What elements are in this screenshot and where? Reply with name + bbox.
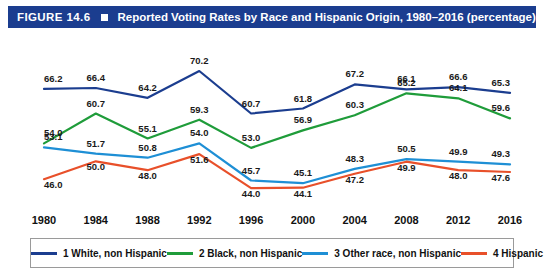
x-axis-tick-label: 2008 [389,214,423,226]
x-axis-tick-label: 1996 [234,214,268,226]
legend-color-swatch [167,252,193,255]
data-point-label: 53.1 [44,131,63,142]
legend-item: 4 Hispanic [461,248,543,259]
x-axis-labels: 1980198419881992199620002004200820122016 [8,214,536,232]
data-point-label: 59.3 [190,104,209,115]
data-point-label: 48.0 [138,170,157,181]
chart-legend: 1 White, non Hispanic2 Black, non Hispan… [30,238,514,268]
data-point-label: 64.1 [449,82,468,93]
data-point-label: 47.2 [345,174,364,185]
legend-label: 4 Hispanic [493,248,543,259]
data-point-label: 51.7 [87,138,106,149]
x-axis-tick-label: 2016 [493,214,527,226]
data-point-label: 70.2 [190,55,209,66]
data-point-label: 45.1 [294,167,313,178]
data-point-label: 66.4 [87,72,106,83]
data-point-label: 49.9 [449,146,468,157]
data-point-label: 60.7 [242,98,261,109]
white-square-icon [101,14,108,21]
x-axis-tick-label: 2004 [338,214,372,226]
chart-svg: 66.266.464.270.260.761.867.266.166.665.3… [8,30,536,216]
data-point-label: 60.3 [345,99,364,110]
data-point-label: 59.6 [492,102,511,113]
legend-color-swatch [31,252,57,255]
data-point-label: 64.2 [138,82,157,93]
figure-title-bar: FIGURE 14.6 Reported Voting Rates by Rac… [8,6,536,28]
legend-color-swatch [461,252,487,255]
data-point-label: 44.0 [242,188,261,199]
data-point-label: 49.3 [492,148,511,159]
x-axis-tick-label: 1980 [27,214,61,226]
data-point-label: 55.1 [138,123,157,134]
data-point-label: 65.3 [492,77,511,88]
data-point-label: 60.7 [87,98,106,109]
data-point-label: 61.8 [294,93,313,104]
data-point-label: 50.8 [138,142,157,153]
series-line [44,93,510,148]
series-line [44,154,510,188]
data-point-label: 53.0 [242,132,261,143]
legend-item: 3 Other race, non Hispanic [302,248,461,259]
x-axis-tick-label: 2012 [441,214,475,226]
data-point-label: 67.2 [345,68,364,79]
x-axis-tick-label: 2000 [286,214,320,226]
legend-label: 1 White, non Hispanic [63,248,167,259]
data-point-label: 48.0 [449,170,468,181]
legend-color-swatch [302,252,328,255]
figure-number: FIGURE 14.6 [8,11,90,23]
figure-container: FIGURE 14.6 Reported Voting Rates by Rac… [0,0,544,278]
x-axis-tick-label: 1988 [131,214,165,226]
data-point-label: 50.0 [87,161,106,172]
data-point-label: 51.6 [190,154,209,165]
legend-label: 2 Black, non Hispanic [199,248,302,259]
legend-item: 1 White, non Hispanic [31,248,167,259]
data-point-label: 66.6 [449,71,468,82]
chart-plot-area: 66.266.464.270.260.761.867.266.166.665.3… [8,30,536,216]
data-point-label: 50.5 [397,143,416,154]
data-point-label: 56.9 [294,114,313,125]
x-axis-tick-label: 1992 [182,214,216,226]
data-point-label: 44.1 [294,188,313,199]
data-point-label: 66.2 [44,73,63,84]
data-point-label: 65.2 [397,77,416,88]
legend-label: 3 Other race, non Hispanic [334,248,461,259]
data-point-label: 54.0 [190,127,209,138]
x-axis-tick-label: 1984 [79,214,113,226]
series-line [44,71,510,114]
legend-item: 2 Black, non Hispanic [167,248,302,259]
figure-title: Reported Voting Rates by Race and Hispan… [117,11,535,23]
data-point-label: 45.7 [242,165,261,176]
data-point-label: 47.6 [492,172,511,183]
data-point-label: 49.9 [397,162,416,173]
data-point-label: 48.3 [345,153,364,164]
data-point-label: 46.0 [44,179,63,190]
